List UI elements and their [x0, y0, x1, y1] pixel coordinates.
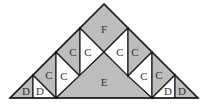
label-c1: C: [45, 69, 52, 81]
label-c2: C: [60, 70, 67, 82]
label-c8: C: [155, 69, 162, 81]
label-d1: D: [22, 85, 30, 97]
label-d3: D: [164, 85, 172, 97]
label-c4: C: [84, 46, 91, 58]
label-c6: C: [131, 46, 138, 58]
label-c7: C: [140, 70, 147, 82]
label-c5: C: [116, 46, 123, 58]
label-d4: D: [178, 85, 186, 97]
diagram-canvas: D D C C C C F E C C C C D D: [0, 0, 204, 109]
triangle-dissection-diagram: D D C C C C F E C C C C D D: [0, 0, 204, 109]
label-c3: C: [69, 46, 76, 58]
label-e: E: [101, 76, 108, 88]
label-d2: D: [36, 85, 44, 97]
label-f: F: [101, 23, 107, 35]
